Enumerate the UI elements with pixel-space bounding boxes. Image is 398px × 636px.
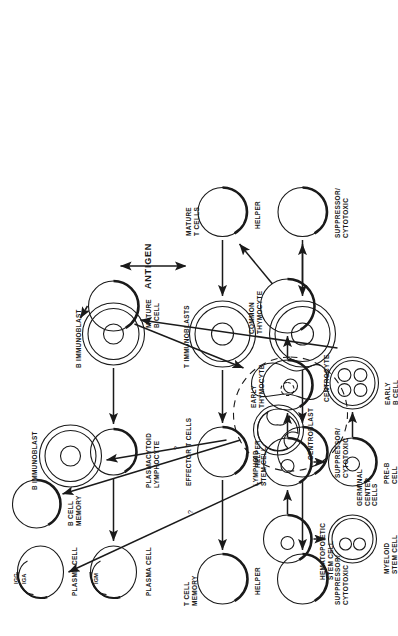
cell-hematopoietic-stem-cell	[263, 515, 311, 563]
label-helper-mature: HELPER	[253, 201, 261, 229]
label-question-mark-1: ?	[172, 446, 180, 450]
label-iga: IgA	[20, 573, 27, 584]
label-b-immunoblast-2: B IMMUNOBLAST	[30, 431, 38, 490]
cell-b-immunoblast-1	[82, 303, 144, 365]
cell-lymphoid-stem-cell	[263, 438, 311, 486]
label-plasma-cell-igg-iga: PLASMA CELL	[70, 547, 78, 596]
label-suppressor-cytotoxic-memory: SUPPRESSOR/ CYTOTOXIC	[333, 555, 348, 605]
cell-b-immunoblast-2	[39, 425, 101, 487]
label-early-b-cell: EARLY B CELL	[383, 380, 398, 405]
label-common-thymocyte: COMMON THYMOCYTE	[247, 291, 262, 334]
label-plasma-cell-igm: PLASMA CELL	[144, 547, 152, 596]
label-early-thymocyte: EARLY THYMOCYTE	[249, 365, 264, 408]
cell-plasma-cell-igg-iga	[17, 546, 63, 598]
label-effector-t-cells: EFFECTOR T CELLS	[184, 418, 192, 486]
label-centrocyte: CENTROCYTE	[322, 354, 330, 402]
cell-early-thymocyte	[262, 360, 312, 410]
label-centroblast: CENTROBLAST	[306, 408, 314, 460]
label-germinal-center-cells: GERMINAL CENTER CELLS	[355, 469, 378, 506]
cell-effector-helper	[197, 427, 247, 477]
label-helper-memory: HELPER	[253, 567, 261, 595]
label-b-cell-memory: B CELL MEMORY	[66, 495, 81, 526]
label-igg: IgG	[12, 573, 19, 584]
cell-plasmacytoid-lymphocyte	[90, 429, 136, 475]
label-suppressor-cytotoxic-effector: SUPPRESSOR/ CYTOTOXIC	[333, 428, 348, 478]
cell-t-immunoblast-helper	[189, 301, 255, 367]
label-myeloid-stem-cell: MYELOID STEM CELL	[382, 535, 397, 574]
label-t-cell-memory: T CELL MEMORY	[182, 575, 197, 606]
label-t-immunoblasts: T IMMUNOBLASTS	[182, 305, 190, 368]
label-mature-b-cell: MATURE B CELL	[144, 299, 159, 328]
cell-common-thymocyte	[260, 279, 314, 333]
label-pre-b-cell: PRE-B CELL	[382, 462, 397, 484]
label-helper-effector: HELPER	[253, 440, 261, 468]
arrow-centroblast-to-plasma-cell-igg	[68, 482, 262, 572]
label-mature-t-cells: MATURE T CELLS	[184, 207, 199, 236]
cell-mature-t-helper	[198, 188, 247, 237]
label-b-immunoblast-1: B IMMUNOBLAST	[74, 309, 82, 368]
label-hematopoietic-stem-cell: HEMATOPOIETIC STEM CELL	[318, 523, 333, 580]
label-question-mark-2: ?	[186, 510, 194, 514]
label-igm: IgM	[92, 573, 99, 584]
cell-early-b-cell	[326, 357, 378, 409]
label-suppressor-cytotoxic-mature: SUPPRESSOR/ CYTOTOXIC	[333, 188, 348, 238]
cell-memory-helper	[197, 554, 247, 604]
label-antigen: ANTIGEN	[144, 243, 152, 289]
label-plasmacytoid-lymphocyte: PLASMACYTOID LYMPHOCYTE	[144, 433, 159, 488]
cell-mature-t-suppressor	[278, 188, 327, 237]
arrow-common-to-mature-helper	[239, 244, 272, 284]
